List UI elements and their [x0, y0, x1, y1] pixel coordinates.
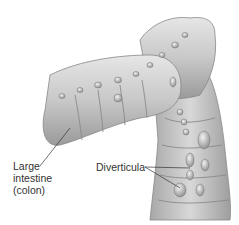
colon-label-line2: intestine: [13, 172, 52, 184]
diverticula-label: Diverticula: [96, 161, 145, 173]
colon-label: Large intestine (colon): [13, 160, 52, 196]
colon-illustration: Large intestine (colon) Diverticula: [0, 0, 239, 225]
colon-label-line3: (colon): [13, 184, 52, 196]
colon-label-line1: Large: [13, 160, 52, 172]
